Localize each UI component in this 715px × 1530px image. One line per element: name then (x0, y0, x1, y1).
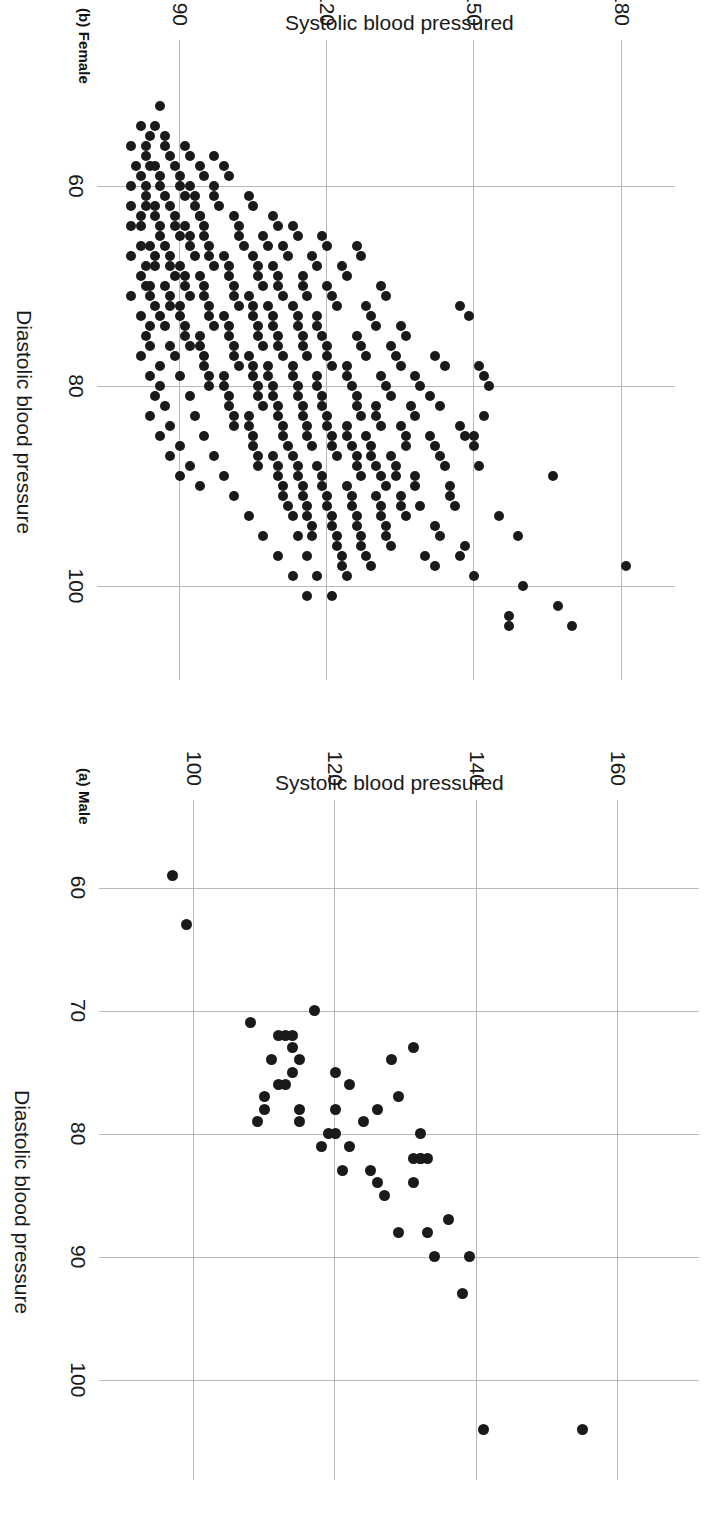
data-point (330, 1067, 341, 1078)
data-point (381, 521, 391, 531)
gridline-y (193, 800, 194, 1480)
data-point (342, 571, 352, 581)
gridline-x (99, 1134, 699, 1135)
tick-label-x: 80 (68, 1122, 89, 1145)
data-point (244, 351, 254, 361)
data-point (293, 461, 303, 471)
data-point (273, 461, 283, 471)
data-point (229, 291, 239, 301)
data-point (252, 1116, 263, 1127)
data-point (175, 471, 185, 481)
data-point (288, 571, 298, 581)
data-point (167, 870, 178, 881)
tick-label-y: 180 (611, 0, 632, 26)
data-point (435, 401, 445, 411)
data-point (278, 351, 288, 361)
data-point (273, 281, 283, 291)
data-point (234, 221, 244, 231)
data-point (273, 331, 283, 341)
data-point (352, 331, 362, 341)
plot-area-male (123, 826, 675, 1466)
data-point (347, 381, 357, 391)
gridline-y (621, 40, 622, 680)
data-point (293, 471, 303, 481)
data-point (219, 371, 229, 381)
data-point (185, 291, 195, 301)
tick-label-x: 60 (68, 876, 89, 899)
data-point (316, 1141, 327, 1152)
data-point (332, 301, 342, 311)
data-point (391, 351, 401, 361)
data-point (287, 1067, 298, 1078)
data-point (273, 551, 283, 561)
data-point (293, 391, 303, 401)
data-point (327, 441, 337, 451)
data-point (401, 441, 411, 451)
data-point (126, 221, 136, 231)
data-point (288, 511, 298, 521)
data-point (293, 381, 303, 391)
tick-label-x: 70 (68, 999, 89, 1022)
data-point (219, 161, 229, 171)
data-point (224, 321, 234, 331)
data-point (298, 481, 308, 491)
data-point (327, 431, 337, 441)
data-point (234, 301, 244, 311)
data-point (175, 311, 185, 321)
data-point (185, 461, 195, 471)
data-point (504, 611, 514, 621)
data-point (141, 201, 151, 211)
data-point (298, 341, 308, 351)
data-point (244, 411, 254, 421)
data-point (298, 491, 308, 501)
data-point (504, 621, 514, 631)
data-point (170, 161, 180, 171)
data-point (342, 481, 352, 491)
data-point (136, 211, 146, 221)
axis-title-x-male: Diastolic blood pressure (12, 1090, 33, 1314)
data-point (244, 511, 254, 521)
data-point (327, 361, 337, 371)
data-point (278, 421, 288, 431)
data-point (229, 341, 239, 351)
panel-male: (a) Male Diastolic blood pressure Systol… (0, 760, 715, 1530)
data-point (440, 361, 450, 371)
gridline-x (97, 586, 675, 587)
data-point (126, 291, 136, 301)
figure-root: (b) Female Diastolic blood pressure Syst… (0, 0, 715, 1530)
data-point (278, 491, 288, 501)
tick-label-y: 120 (317, 0, 338, 26)
data-point (386, 391, 396, 401)
data-point (342, 421, 352, 431)
data-point (273, 471, 283, 481)
panel-female: (b) Female Diastolic blood pressure Syst… (0, 0, 715, 715)
data-point (136, 121, 146, 131)
data-point (185, 151, 195, 161)
data-point (406, 401, 416, 411)
gridline-y (334, 800, 335, 1480)
data-point (352, 511, 362, 521)
data-point (288, 301, 298, 311)
data-point (175, 261, 185, 271)
gridline-x (99, 888, 699, 889)
data-point (415, 1128, 426, 1139)
data-point (244, 291, 254, 301)
data-point (337, 261, 347, 271)
panel-male-title: (a) Male (76, 768, 93, 825)
data-point (332, 541, 342, 551)
data-point (445, 491, 455, 501)
data-point (450, 501, 460, 511)
data-point (190, 411, 200, 421)
data-point (180, 221, 190, 231)
data-point (381, 531, 391, 541)
data-point (273, 341, 283, 351)
data-point (283, 441, 293, 451)
data-point (136, 221, 146, 231)
data-point (244, 191, 254, 201)
data-point (224, 261, 234, 271)
data-point (455, 551, 465, 561)
data-point (344, 1141, 355, 1152)
data-point (229, 411, 239, 421)
data-point (141, 151, 151, 161)
data-point (327, 511, 337, 521)
